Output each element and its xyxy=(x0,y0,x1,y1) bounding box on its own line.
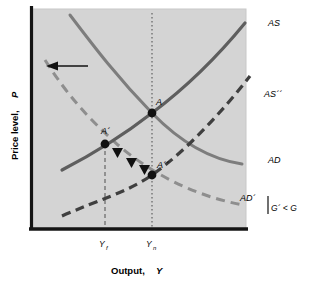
curve-label-as-double-prime: AS´´ xyxy=(263,89,282,99)
y-axis-symbol: P xyxy=(9,91,20,98)
y-axis-title-group: Price level, P xyxy=(9,91,20,160)
y-axis-title: Price level, xyxy=(9,110,20,160)
point-a-label: A xyxy=(155,97,162,107)
tick-yn-subscript: n xyxy=(153,245,157,251)
tick-yf-subscript: f xyxy=(106,245,109,251)
government-spending-note: G´ < G xyxy=(271,203,297,213)
point-a-double-prime-marker xyxy=(148,171,157,180)
x-axis-symbol: Y xyxy=(156,265,164,276)
point-a-prime-marker xyxy=(101,140,110,149)
tick-label-yf: Y f xyxy=(99,239,109,251)
ad-as-diagram-figure: A A´ A´´ AS AS´´ AD AD´ G´ < G Y f Y n P… xyxy=(0,0,322,284)
tick-yn-symbol: Y xyxy=(146,239,153,249)
tick-yf-symbol: Y xyxy=(99,239,106,249)
point-a-double-prime-label: A´´ xyxy=(156,160,169,170)
point-a-prime-label: A´ xyxy=(100,126,110,136)
diagram-canvas: A A´ A´´ AS AS´´ AD AD´ G´ < G Y f Y n P… xyxy=(0,0,322,284)
tick-label-yn: Y n xyxy=(146,239,157,251)
curve-label-as: AS xyxy=(267,18,280,28)
curve-label-ad: AD xyxy=(267,155,281,165)
x-axis-title-group: Output, Y xyxy=(111,265,164,276)
point-a-marker xyxy=(148,109,157,118)
curve-label-ad-prime: AD´ xyxy=(239,193,256,203)
x-axis-title: Output, xyxy=(111,265,145,276)
